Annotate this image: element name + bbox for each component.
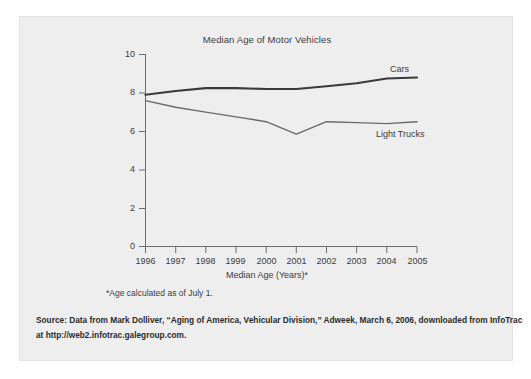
x-axis-label-2004: 2004 bbox=[371, 256, 402, 266]
x-axis-label-1997: 1997 bbox=[160, 256, 191, 266]
y-axis-label-6: 6 bbox=[113, 126, 135, 136]
y-axis-label-0: 0 bbox=[113, 241, 135, 251]
source-note: Source: Data from Mark Dolliver, “Aging … bbox=[36, 313, 498, 342]
x-axis-label-1996: 1996 bbox=[130, 256, 161, 266]
x-axis-label-2005: 2005 bbox=[402, 256, 433, 266]
y-axis-label-10: 10 bbox=[113, 49, 135, 59]
x-axis-label-2000: 2000 bbox=[251, 256, 282, 266]
series-label-cars: Cars bbox=[390, 64, 409, 74]
x-axis-title: Median Age (Years)* bbox=[20, 270, 514, 280]
x-axis-label-1999: 1999 bbox=[220, 256, 251, 266]
figure-container: Median Age of Motor Vehicles bbox=[0, 0, 531, 379]
chart-footnote: *Age calculated as of July 1. bbox=[106, 288, 213, 298]
chart-plate: Median Age of Motor Vehicles bbox=[19, 16, 513, 361]
x-axis-label-2003: 2003 bbox=[341, 256, 372, 266]
source-note-line-2: at http://web2.infotrac.galegroup.com. bbox=[36, 328, 498, 343]
y-axis-ticks bbox=[139, 55, 146, 247]
chart-plot-area: 10 8 6 4 2 0 1996 1997 1998 1999 2000 20… bbox=[20, 17, 514, 307]
x-axis-label-1998: 1998 bbox=[190, 256, 221, 266]
y-axis-label-8: 8 bbox=[113, 87, 135, 97]
x-axis-ticks bbox=[146, 247, 418, 254]
y-axis-label-2: 2 bbox=[113, 203, 135, 213]
x-axis-label-2002: 2002 bbox=[311, 256, 342, 266]
series-line-cars bbox=[146, 78, 418, 95]
series-label-light-trucks: Light Trucks bbox=[376, 129, 425, 139]
y-axis-label-4: 4 bbox=[113, 164, 135, 174]
x-axis-label-2001: 2001 bbox=[281, 256, 312, 266]
source-note-line-1: Source: Data from Mark Dolliver, “Aging … bbox=[36, 313, 498, 328]
